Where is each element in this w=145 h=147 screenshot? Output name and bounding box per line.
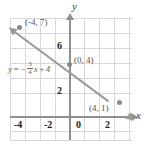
equation-equals: = — [13, 64, 19, 74]
equation-lhs: y — [8, 64, 12, 74]
gridline-vertical — [40, 18, 41, 140]
gridline-vertical — [25, 18, 26, 140]
point-label-a: (-4, 7) — [25, 17, 48, 27]
y-tick-label: 6 — [57, 40, 62, 51]
coordinate-graph-figure: y x (-4, 7) (0, 4) (4, 1) y = − 3 4 x + … — [0, 0, 145, 147]
gridline-vertical — [99, 18, 100, 140]
gridline-horizontal — [10, 140, 132, 141]
data-point — [17, 25, 22, 30]
gridline-vertical — [10, 18, 11, 140]
y-tick-label: 2 — [57, 85, 62, 96]
gridline-horizontal — [10, 78, 132, 79]
x-tick-label: -4 — [14, 119, 22, 130]
gridline-horizontal — [10, 33, 132, 34]
x-tick-label: 0 — [76, 119, 81, 130]
gridline-horizontal — [10, 48, 132, 49]
equation-variable: x — [34, 64, 38, 74]
x-tick-label: 2 — [105, 119, 110, 130]
x-axis — [10, 116, 134, 118]
gridline-vertical — [114, 18, 115, 140]
x-axis-label: x — [136, 109, 141, 121]
gridline-vertical — [84, 18, 85, 140]
data-point — [117, 100, 122, 105]
fraction-numerator: 3 — [27, 61, 33, 68]
equation-minus: − — [20, 64, 26, 74]
y-axis — [69, 18, 71, 140]
point-label-b: (0, 4) — [74, 55, 94, 65]
y-axis-arrow-icon — [66, 13, 74, 20]
gridline-vertical — [55, 18, 56, 140]
graph-grid — [10, 18, 132, 140]
equation-intercept: 4 — [46, 64, 51, 74]
equation-fraction: 3 4 — [27, 61, 33, 76]
equation-label: y = − 3 4 x + 4 — [8, 61, 50, 76]
data-point — [67, 62, 72, 67]
x-tick-label: -2 — [44, 119, 52, 130]
gridline-horizontal — [10, 131, 132, 132]
fraction-denominator: 4 — [27, 69, 33, 76]
gridline-horizontal — [10, 93, 132, 94]
equation-plus: + — [39, 64, 45, 74]
y-axis-label: y — [72, 0, 77, 12]
point-label-c: (4, 1) — [89, 103, 109, 113]
